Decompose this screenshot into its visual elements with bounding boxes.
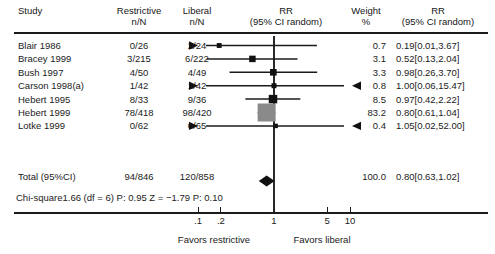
axis-footer-left: Favors restrictive: [178, 234, 250, 245]
ci-arrow-left-icon: [189, 82, 198, 90]
summary-diamond: [259, 176, 275, 187]
point-estimate-marker: [249, 56, 255, 62]
axis-footer-right: Favors liberal: [293, 234, 350, 245]
axis-tick: [274, 207, 275, 212]
point-estimate-marker: [272, 83, 277, 88]
ci-arrow-right-icon: [352, 82, 361, 90]
axis-tick-label: 1: [271, 215, 276, 226]
axis-tick-label: .2: [217, 215, 225, 226]
axis-tick: [220, 207, 221, 212]
axis-tick: [198, 207, 199, 212]
point-estimate-marker: [270, 69, 277, 76]
axis-tick: [327, 207, 328, 212]
axis-tick-label: .1: [194, 215, 202, 226]
ci-arrow-left-icon: [189, 41, 198, 49]
point-estimate-marker: [258, 104, 276, 122]
axis-tick-label: 10: [345, 215, 356, 226]
forest-plot-canvas: [0, 0, 495, 254]
axis-tick: [350, 207, 351, 212]
ci-arrow-right-icon: [352, 122, 361, 130]
axis-tick-label: 5: [324, 215, 329, 226]
ci-arrow-left-icon: [189, 122, 198, 130]
point-estimate-marker: [273, 124, 278, 129]
point-estimate-marker: [217, 43, 222, 48]
x-axis-line: [14, 212, 488, 214]
point-estimate-marker: [269, 95, 278, 104]
